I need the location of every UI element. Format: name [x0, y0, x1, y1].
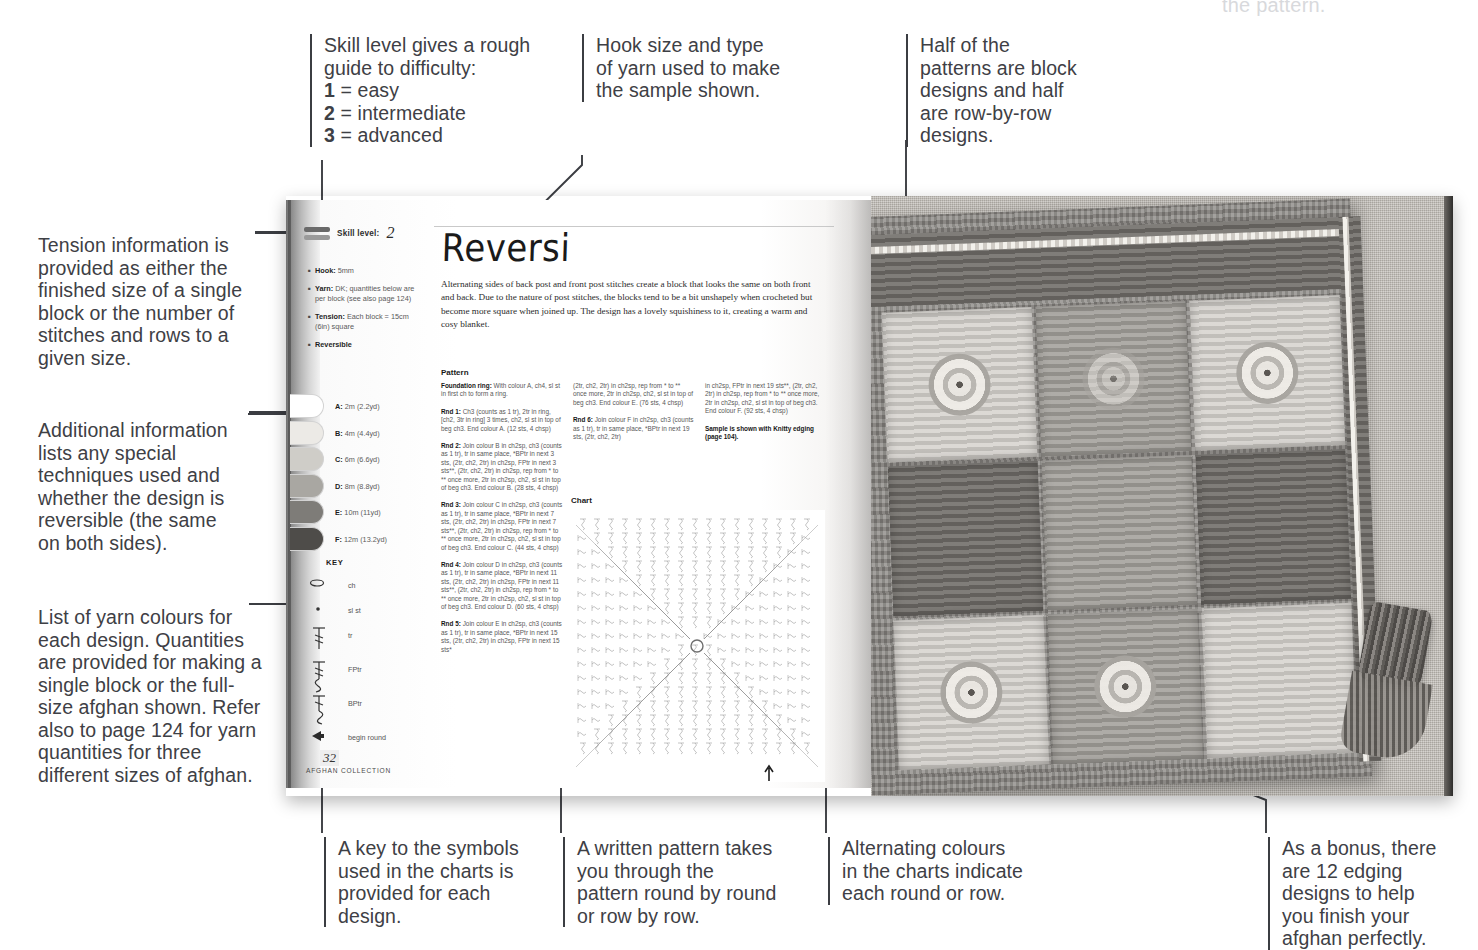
key-label-begin-round: begin round	[348, 733, 386, 742]
pattern-label: Rnd 6:	[573, 416, 593, 423]
yarn-swatch-f	[290, 527, 324, 551]
book-spread: Skill level: 2 Hook: 5mm Yarn: DK; quant…	[286, 196, 1453, 796]
fptr-icon	[308, 659, 334, 681]
chart-heading: Chart	[571, 496, 592, 505]
pattern-para: Rnd 3: Join colour C in ch2sp, ch3 (coun…	[441, 501, 563, 551]
callout-bonus-edgings: As a bonus, there are 12 edging designs …	[1268, 837, 1448, 950]
skill-level-1: 1	[324, 79, 335, 101]
key-label-fptr: FPtr	[348, 665, 362, 674]
yarn-row: E: 10m (11yd)	[290, 500, 424, 527]
ghost-text-top: the pattern.	[1222, 0, 1326, 16]
pattern-heading: Pattern	[441, 368, 469, 377]
yarn-row: B: 4m (4.4yd)	[290, 421, 424, 448]
yarn-amount-a: 2m (2.2yd)	[343, 402, 380, 411]
key-row-bptr: BPtr	[326, 693, 436, 727]
meta-item-yarn: Yarn: DK; quantities below are per block…	[308, 284, 424, 303]
key-label-slst: sl st	[348, 606, 361, 615]
yarn-amount-f: 12m (13.2yd)	[342, 535, 387, 544]
slst-dot-icon	[308, 600, 334, 622]
skill-level-label: Skill level:	[337, 229, 379, 238]
yarn-row: F: 12m (13.2yd)	[290, 527, 424, 554]
yarn-swatch-a	[290, 394, 324, 418]
blanket-block	[1195, 449, 1351, 605]
meta-item-tension: Tension: Each block = 15cm (6in) square	[308, 312, 424, 331]
yarn-colour-list: A: 2m (2.2yd) B: 4m (4.4yd) C: 6m (6.6yd…	[290, 394, 424, 553]
pattern-label: Rnd 4:	[441, 561, 461, 568]
pattern-para: Rnd 6: Join colour F in ch2sp, ch3 (coun…	[573, 416, 695, 441]
tr-icon	[308, 625, 334, 647]
key-row-slst: sl st	[326, 600, 436, 625]
callout-key-symbols: A key to the symbols used in the charts …	[324, 837, 536, 927]
skill-level-value: 2	[386, 224, 394, 242]
callout-skill-level-text: Skill level gives a rough guide to diffi…	[324, 34, 530, 79]
crochet-blanket	[871, 199, 1372, 796]
yarn-text-d: D: 8m (8.8yd)	[335, 482, 380, 491]
ch-oval-icon	[308, 575, 334, 597]
pattern-label: Rnd 2:	[441, 442, 461, 449]
chart-key-title: KEY	[326, 558, 436, 567]
yarn-row: A: 2m (2.2yd)	[290, 394, 424, 421]
skill-level-2: 2	[324, 102, 335, 124]
yarn-amount-e: 10m (11yd)	[342, 508, 380, 517]
skill-level-3-label: = advanced	[335, 124, 443, 146]
stitch-chart-svg	[569, 510, 825, 782]
meta-label-reversible: Reversible	[315, 340, 352, 349]
yarn-text-a: A: 2m (2.2yd)	[335, 402, 380, 411]
yarn-letter-b: B:	[335, 429, 343, 438]
yarn-amount-d: 8m (8.8yd)	[343, 482, 380, 491]
skill-level-2-label: = intermediate	[335, 102, 466, 124]
skill-level-1-label: = easy	[335, 79, 399, 101]
yarn-row: D: 8m (8.8yd)	[290, 474, 424, 501]
yarn-swatch-c	[290, 447, 324, 471]
meta-list: Hook: 5mm Yarn: DK; quantities below are…	[308, 266, 424, 358]
skill-level-3: 3	[324, 124, 335, 146]
key-label-ch: ch	[348, 581, 356, 590]
pattern-text: in ch2sp, FPtr in next 19 sts**, (2tr, c…	[705, 382, 819, 414]
pattern-label: Rnd 3:	[441, 501, 461, 508]
meta-text-hook: 5mm	[336, 266, 354, 275]
yarn-text-c: C: 6m (6.6yd)	[335, 455, 380, 464]
book-outer-edge	[1444, 196, 1453, 796]
stitch-chart	[569, 510, 825, 782]
yarn-swatch-b	[290, 421, 324, 445]
pattern-para: Rnd 5: Join colour E in ch2sp, ch3 (coun…	[441, 620, 563, 654]
pattern-para: Sample is shown with Knitty edging (page…	[705, 425, 827, 442]
callout-alternating-colours: Alternating colours in the charts indica…	[828, 837, 1026, 905]
yarn-letter-a: A:	[335, 402, 343, 411]
pattern-label: Rnd 1:	[441, 408, 461, 415]
pattern-column-1: Foundation ring: With colour A, ch4, sl …	[441, 382, 563, 663]
key-label-bptr: BPtr	[348, 699, 362, 708]
pattern-text: Join colour C in ch2sp, ch3 (counts as 1…	[441, 501, 562, 550]
key-row-ch: ch	[326, 575, 436, 600]
screenshot-root: the pattern. Skill level gives a rough g…	[0, 0, 1478, 950]
yarn-amount-c: 6m (6.6yd)	[343, 455, 380, 464]
page-title: Reversi	[441, 225, 571, 270]
pattern-para: Foundation ring: With colour A, ch4, sl …	[441, 382, 563, 399]
meta-item-hook: Hook: 5mm	[308, 266, 424, 275]
callout-additional-info: Additional information lists any special…	[38, 419, 238, 554]
yarn-text-e: E: 10m (11yd)	[335, 508, 381, 517]
meta-label-tension: Tension:	[315, 312, 345, 321]
book-right-page-photo	[871, 196, 1453, 796]
begin-round-arrow-icon	[308, 727, 334, 749]
bptr-icon	[308, 693, 334, 715]
yarn-swatch-d	[290, 474, 324, 498]
meta-label-yarn: Yarn:	[315, 284, 333, 293]
pattern-para: (2tr, ch2, 2tr) in ch2sp, rep from * to …	[573, 382, 695, 407]
yarn-tails	[1338, 671, 1433, 764]
blanket-block	[888, 461, 1044, 617]
pattern-para: Rnd 1: Ch3 (counts as 1 tr), 2tr in ring…	[441, 408, 563, 433]
key-row-fptr: FPtr	[326, 659, 436, 693]
callout-skill-level: Skill level gives a rough guide to diffi…	[310, 34, 540, 147]
callout-yarn-colours: List of yarn colours for each design. Qu…	[38, 606, 262, 786]
intro-paragraph: Alternating sides of back post and front…	[441, 278, 825, 332]
pattern-para: Rnd 2: Join colour B in ch2sp, ch3 (coun…	[441, 442, 563, 492]
folio: 32 AFGHAN COLLECTION	[306, 748, 391, 774]
meta-label-hook: Hook:	[315, 266, 336, 275]
pattern-label: Foundation ring:	[441, 382, 492, 389]
yarn-swatch-e	[290, 500, 324, 524]
blanket-block	[1042, 455, 1198, 611]
yarn-amount-b: 4m (4.4yd)	[343, 429, 380, 438]
folio-section-title: AFGHAN COLLECTION	[306, 767, 391, 774]
blanket-block	[1201, 603, 1357, 759]
